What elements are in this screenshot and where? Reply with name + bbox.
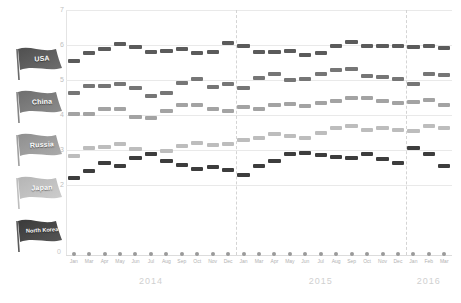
data-mark-russia-14 bbox=[284, 102, 296, 106]
year-label-2014: 2014 bbox=[139, 276, 163, 286]
data-mark-japan-3 bbox=[114, 142, 126, 146]
x-tick-dot-24 bbox=[442, 252, 446, 256]
data-mark-usa-23 bbox=[423, 44, 435, 48]
data-mark-russia-12 bbox=[253, 107, 265, 111]
data-mark-russia-3 bbox=[114, 107, 126, 111]
data-mark-north-korea-15 bbox=[299, 151, 311, 155]
data-mark-china-9 bbox=[207, 85, 219, 89]
data-mark-usa-21 bbox=[392, 44, 404, 48]
x-tick-dot-23 bbox=[427, 252, 431, 256]
data-mark-usa-16 bbox=[315, 51, 327, 55]
data-mark-north-korea-19 bbox=[361, 152, 373, 156]
x-tick-dot-5 bbox=[149, 252, 153, 256]
data-mark-usa-24 bbox=[438, 46, 450, 50]
data-mark-north-korea-22 bbox=[407, 146, 419, 150]
x-tick-label-17: Aug bbox=[332, 258, 341, 264]
data-mark-japan-19 bbox=[361, 128, 373, 132]
x-tick-label-9: Nov bbox=[208, 258, 217, 264]
x-tick-dot-11 bbox=[242, 252, 246, 256]
data-mark-usa-13 bbox=[268, 50, 280, 54]
legend-item-japan[interactable]: Japan bbox=[8, 173, 70, 213]
data-mark-china-15 bbox=[299, 77, 311, 81]
data-mark-china-24 bbox=[438, 73, 450, 77]
data-mark-usa-9 bbox=[207, 50, 219, 54]
gridline-2 bbox=[66, 185, 452, 186]
data-mark-china-23 bbox=[423, 72, 435, 76]
data-mark-japan-0 bbox=[68, 154, 80, 158]
data-mark-japan-24 bbox=[438, 126, 450, 130]
year-label-2015: 2015 bbox=[309, 276, 333, 286]
y-tick-label-5: 5 bbox=[55, 76, 64, 83]
data-mark-japan-6 bbox=[160, 149, 172, 153]
x-tick-label-22: Jan bbox=[409, 258, 417, 264]
x-tick-label-21: Dec bbox=[394, 258, 403, 264]
data-mark-usa-0 bbox=[68, 59, 80, 63]
data-mark-usa-15 bbox=[299, 53, 311, 57]
x-tick-dot-7 bbox=[180, 252, 184, 256]
x-tick-dot-20 bbox=[381, 252, 385, 256]
data-mark-usa-2 bbox=[98, 47, 110, 51]
data-mark-china-1 bbox=[83, 84, 95, 88]
y-axis bbox=[66, 10, 67, 255]
y-tick-label-4: 4 bbox=[55, 111, 64, 118]
data-mark-china-20 bbox=[376, 75, 388, 79]
data-mark-japan-4 bbox=[129, 147, 141, 151]
data-mark-usa-7 bbox=[176, 47, 188, 51]
x-tick-dot-17 bbox=[334, 252, 338, 256]
data-mark-japan-12 bbox=[253, 136, 265, 140]
data-mark-japan-15 bbox=[299, 136, 311, 140]
data-mark-china-13 bbox=[268, 72, 280, 76]
data-mark-russia-7 bbox=[176, 103, 188, 107]
data-mark-russia-4 bbox=[129, 115, 141, 119]
gridline-4 bbox=[66, 115, 452, 116]
legend-item-china[interactable]: China bbox=[8, 87, 70, 127]
x-tick-label-0: Jan bbox=[70, 258, 78, 264]
x-tick-label-20: Nov bbox=[378, 258, 387, 264]
data-mark-china-0 bbox=[68, 91, 80, 95]
data-mark-china-8 bbox=[191, 77, 203, 81]
data-mark-north-korea-13 bbox=[268, 159, 280, 163]
data-mark-usa-20 bbox=[376, 44, 388, 48]
x-tick-label-18: Sep bbox=[347, 258, 356, 264]
data-mark-north-korea-12 bbox=[253, 164, 265, 168]
data-mark-usa-1 bbox=[83, 51, 95, 55]
data-mark-usa-18 bbox=[345, 40, 357, 44]
data-mark-russia-2 bbox=[98, 107, 110, 111]
data-mark-russia-8 bbox=[191, 103, 203, 107]
x-tick-label-6: Aug bbox=[162, 258, 171, 264]
data-mark-usa-4 bbox=[129, 45, 141, 49]
data-mark-usa-14 bbox=[284, 49, 296, 53]
data-mark-north-korea-4 bbox=[129, 156, 141, 160]
data-mark-usa-22 bbox=[407, 45, 419, 49]
data-mark-russia-6 bbox=[160, 109, 172, 113]
data-mark-north-korea-10 bbox=[222, 168, 234, 172]
x-tick-dot-22 bbox=[411, 252, 415, 256]
data-mark-north-korea-18 bbox=[345, 156, 357, 160]
x-tick-dot-19 bbox=[365, 252, 369, 256]
x-tick-dot-6 bbox=[164, 252, 168, 256]
data-mark-usa-8 bbox=[191, 51, 203, 55]
x-tick-dot-2 bbox=[103, 252, 107, 256]
x-tick-label-4: Jun bbox=[131, 258, 139, 264]
data-mark-china-6 bbox=[160, 91, 172, 95]
y-tick-zero: 0 bbox=[57, 248, 61, 255]
x-tick-dot-18 bbox=[350, 252, 354, 256]
x-tick-dot-13 bbox=[272, 252, 276, 256]
data-mark-japan-2 bbox=[98, 145, 110, 149]
data-mark-russia-23 bbox=[423, 98, 435, 102]
data-mark-china-10 bbox=[222, 82, 234, 86]
data-mark-japan-14 bbox=[284, 134, 296, 138]
x-tick-dot-16 bbox=[319, 252, 323, 256]
data-mark-china-14 bbox=[284, 78, 296, 82]
data-mark-china-19 bbox=[361, 74, 373, 78]
data-mark-russia-13 bbox=[268, 103, 280, 107]
data-mark-north-korea-14 bbox=[284, 152, 296, 156]
x-tick-label-7: Sep bbox=[177, 258, 186, 264]
x-tick-label-16: Jul bbox=[318, 258, 324, 264]
data-mark-russia-17 bbox=[330, 99, 342, 103]
x-tick-label-1: Mar bbox=[85, 258, 94, 264]
data-mark-north-korea-9 bbox=[207, 165, 219, 169]
data-mark-russia-11 bbox=[237, 105, 249, 109]
y-tick-label-6: 6 bbox=[55, 41, 64, 48]
data-mark-japan-20 bbox=[376, 126, 388, 130]
